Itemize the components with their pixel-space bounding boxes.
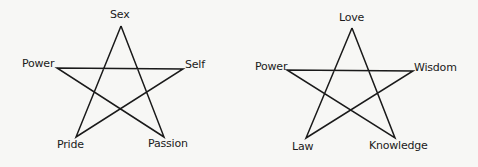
label-love: Love (339, 12, 364, 23)
label-sex: Sex (110, 9, 129, 20)
label-wisdom: Wisdom (414, 62, 457, 73)
label-power-left: Power (22, 58, 54, 69)
label-knowledge: Knowledge (369, 140, 428, 151)
diagram-canvas: Sex Power Self Pride Passion Love Power … (0, 0, 478, 167)
label-self: Self (185, 59, 205, 70)
label-passion: Passion (148, 138, 188, 149)
label-pride: Pride (57, 139, 84, 150)
right-pentagram-star (287, 28, 413, 138)
label-law: Law (292, 141, 313, 152)
label-power-right: Power (255, 61, 287, 72)
left-pentagram-star (57, 26, 183, 137)
